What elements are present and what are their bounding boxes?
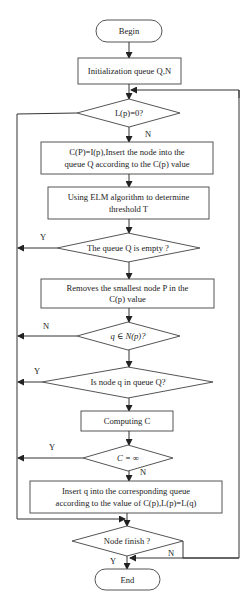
q-in-np-label: q ∈ N(p)? — [110, 331, 146, 341]
node-in-queue-decision: Is node q in queue Q? — [42, 367, 213, 398]
queue-empty-decision: The queue Q is empty ? — [57, 233, 200, 262]
cp-insert-process-box: C(P)=I(p),Insert the node into the queue… — [41, 142, 213, 174]
end-label: End — [121, 575, 136, 585]
node-in-queue-label: Is node q in queue Q? — [90, 377, 165, 387]
computing-c-process-box: Computing C — [81, 411, 173, 431]
check-lp-label: L(p)=0? — [115, 108, 143, 118]
q-in-np-no-label: N — [43, 321, 49, 331]
elm-line1: Using ELM algorithm to determine — [68, 192, 190, 202]
c-infinity-yes-label: Y — [49, 442, 55, 452]
init-label: Initialization queue Q,N — [88, 66, 172, 76]
insert-q-line1: Insert q into the corresponding queue — [62, 486, 190, 496]
queue-empty-label: The queue Q is empty ? — [87, 243, 169, 253]
end-terminal: End — [95, 569, 160, 590]
insert-q-process-box: Insert q into the corresponding queue ac… — [30, 481, 222, 513]
node-finish-yes-label: Y — [110, 556, 116, 566]
begin-terminal: Begin — [96, 20, 162, 42]
remove-node-process-box: Removes the smallest node P in the C(p) … — [41, 279, 214, 308]
node-finish-label: Node finish ? — [104, 536, 150, 546]
queue-empty-yes-label: Y — [40, 232, 46, 242]
flowchart: Begin Initialization queue Q,N L(p)=0? N… — [0, 0, 251, 609]
node-in-queue-yes-label: Y — [34, 366, 40, 376]
check-lp-no-label: N — [145, 129, 151, 139]
insert-q-line2: according to the value of C(p),L(p)=L(q) — [56, 498, 197, 508]
computing-c-label: Computing C — [104, 416, 151, 426]
node-finish-decision: Node finish ? — [72, 526, 183, 556]
node-finish-no-label: N — [168, 548, 174, 558]
c-infinity-decision: C = ∞ — [83, 445, 173, 471]
loop-back-arrow — [131, 90, 239, 98]
q-in-np-decision: q ∈ N(p)? — [77, 322, 180, 350]
c-infinity-no-label: N — [140, 467, 146, 477]
elm-line2: threshold T — [109, 204, 149, 214]
begin-label: Begin — [119, 26, 140, 36]
elm-process-box: Using ELM algorithm to determine thresho… — [48, 187, 209, 219]
c-infinity-label: C = ∞ — [117, 453, 139, 463]
cp-insert-line2: queue Q according to the C(p) value — [64, 159, 189, 169]
init-process-box: Initialization queue Q,N — [78, 58, 181, 84]
check-lp-decision: L(p)=0? — [77, 99, 180, 127]
cp-insert-line1: C(P)=I(p),Insert the node into the — [69, 147, 185, 157]
remove-node-line2: C(p) value — [109, 294, 146, 304]
remove-node-line1: Removes the smallest node P in the — [67, 283, 189, 293]
